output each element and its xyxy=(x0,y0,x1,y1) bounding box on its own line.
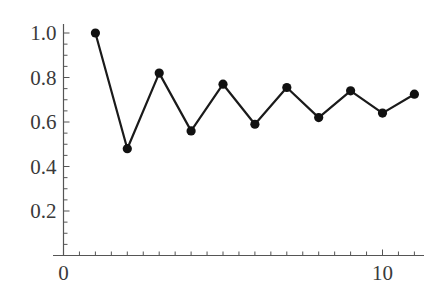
series-line xyxy=(95,33,414,149)
y-tick-label: 0.6 xyxy=(30,110,56,134)
data-point xyxy=(218,80,227,89)
data-point xyxy=(314,113,323,122)
x-tick-label: 10 xyxy=(372,261,393,285)
y-tick-label: 0.8 xyxy=(30,66,56,90)
data-series xyxy=(91,28,419,153)
data-point xyxy=(346,86,355,95)
data-point xyxy=(282,83,291,92)
data-point xyxy=(123,144,132,153)
x-tick-labels: 010 xyxy=(58,261,393,285)
data-point xyxy=(250,120,259,129)
x-axis xyxy=(53,250,424,256)
data-point xyxy=(378,109,387,118)
y-tick-label: 0.2 xyxy=(30,199,56,223)
data-point xyxy=(155,68,164,77)
line-chart: 0.20.40.60.81.0 010 xyxy=(0,0,445,301)
y-tick-labels: 0.20.40.60.81.0 xyxy=(30,21,57,223)
x-tick-label: 0 xyxy=(58,261,69,285)
y-tick-label: 0.4 xyxy=(30,155,57,179)
data-point xyxy=(91,28,100,37)
y-axis xyxy=(64,24,70,256)
data-point xyxy=(410,90,419,99)
data-point xyxy=(187,126,196,135)
y-tick-label: 1.0 xyxy=(30,21,56,45)
